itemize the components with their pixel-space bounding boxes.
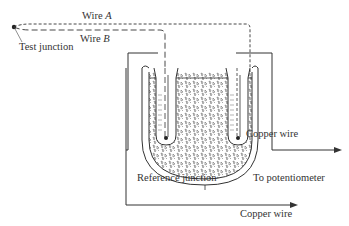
test-tube-left (154, 68, 178, 145)
reference-junction-left-dot (164, 136, 168, 140)
wire-a-letter: A (105, 10, 111, 21)
test-junction-label: Test junction (19, 41, 73, 52)
wire-b-prefix: Wire (80, 33, 101, 44)
wire-a-label: Wire A (82, 10, 112, 21)
reference-junction-label: Reference junction (137, 172, 217, 183)
thermocouple-diagram (0, 0, 349, 226)
reference-junction-right-dot (236, 136, 240, 140)
to-potentiometer-label: To potentiometer (253, 172, 325, 183)
arrow-top (334, 147, 342, 153)
copper-wire-top-label: Copper wire (246, 128, 298, 139)
wire-a-prefix: Wire (82, 10, 103, 21)
copper-wire-bottom-label: Copper wire (240, 208, 292, 219)
wire-b-label: Wire B (80, 33, 110, 44)
wire-b-letter: B (103, 33, 109, 44)
